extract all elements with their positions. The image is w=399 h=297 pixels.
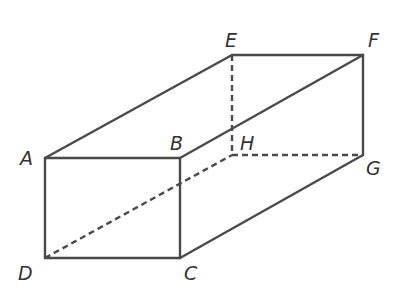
vertex-label-F: F	[368, 29, 380, 51]
vertex-label-G: G	[366, 157, 381, 179]
edge-AE	[45, 55, 232, 158]
vertex-label-H: H	[240, 132, 254, 154]
edge-BF	[180, 55, 363, 158]
vertex-label-D: D	[18, 262, 33, 284]
prism-diagram: A B C D E F G H	[0, 0, 399, 297]
vertex-label-A: A	[18, 147, 33, 169]
edge-CG	[180, 155, 363, 258]
vertex-label-C: C	[184, 262, 198, 284]
edge-DH	[45, 155, 232, 258]
vertex-label-B: B	[170, 132, 183, 154]
vertex-label-E: E	[225, 29, 237, 51]
